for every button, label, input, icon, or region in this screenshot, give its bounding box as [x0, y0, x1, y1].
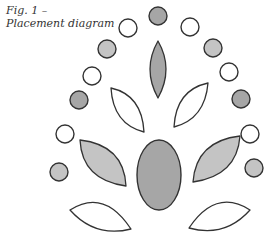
- circle-marker-arc-left-2-light: [98, 40, 116, 58]
- circle-marker-arc-left-3-white: [83, 67, 101, 85]
- oval-shapes: [137, 140, 181, 210]
- leaf-shape-mid-left-light: [80, 140, 126, 186]
- leaf-shape-mid-right-light: [193, 136, 240, 182]
- leaf-shape-bottom-right-white: [189, 202, 250, 230]
- placement-diagram: [0, 0, 271, 235]
- leaf-shape-bottom-left-white: [70, 202, 131, 231]
- circle-marker-arc-left-1-white: [119, 19, 137, 37]
- circle-marker-arc-right-4-dark: [232, 90, 250, 108]
- circle-marker-arc-left-4-dark: [70, 91, 88, 109]
- circle-marker-arc-right-3-white: [220, 63, 238, 81]
- circle-marker-arc-right-5-white: [241, 125, 259, 143]
- circle-marker-top-dark: [149, 7, 167, 25]
- leaf-shape-upper-left-white: [111, 88, 144, 132]
- oval-shape-center-oval-dark: [137, 140, 181, 210]
- circle-marker-arc-right-6-light: [245, 159, 263, 177]
- circle-marker-arc-left-5-white: [56, 125, 74, 143]
- leaf-shape-center-top-dark: [150, 41, 166, 98]
- circle-marker-arc-right-2-light: [204, 39, 222, 57]
- circle-marker-arc-right-1-white: [181, 18, 199, 36]
- circle-marker-arc-left-6-light: [50, 163, 68, 181]
- leaf-shape-upper-right-white: [174, 83, 208, 127]
